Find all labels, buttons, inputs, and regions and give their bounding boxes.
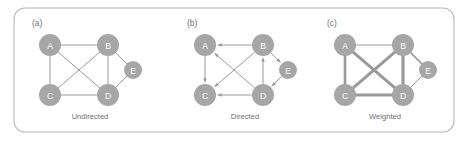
panel-b-edge-D-A <box>218 56 255 88</box>
panel-c-node-C: C <box>334 84 356 106</box>
panel-b-edge-D-B-arrowhead <box>261 57 264 62</box>
panel-a-caption: Undirected <box>72 112 109 121</box>
panel-a-edge-B-E <box>115 52 127 64</box>
panel-b-edge-B-E <box>271 53 277 59</box>
panel-a-node-A-label: A <box>47 41 53 51</box>
panel-c-edge-D-E <box>410 76 422 88</box>
panels-group: ABCDE(a)UndirectedABCDE(b)DirectedABCDE(… <box>32 18 437 121</box>
panel-a-node-B-label: B <box>105 41 111 51</box>
panel-b-node-A: A <box>194 34 216 56</box>
panel-b-node-B: B <box>252 34 274 56</box>
panel-b-label: (b) <box>187 18 198 28</box>
panel-a-edge-D-E <box>115 76 127 88</box>
panel-b-edge-B-C <box>218 53 255 85</box>
panel-a-label: (a) <box>32 18 43 28</box>
panel-b-node-B-label: B <box>260 41 266 51</box>
panel-a: ABCDE(a)Undirected <box>32 18 142 121</box>
panel-b-edge-D-C-arrowhead <box>217 93 222 96</box>
panel-b-edge-A-C-arrowhead <box>203 78 206 83</box>
panel-c-node-E: E <box>419 61 437 79</box>
panel-c-label: (c) <box>327 18 337 28</box>
panel-c: ABCDE(c)Weighted <box>327 18 437 121</box>
graph-types-figure: ABCDE(a)UndirectedABCDE(b)DirectedABCDE(… <box>0 0 468 144</box>
panel-b-node-E-label: E <box>285 66 291 76</box>
panel-c-node-A-label: A <box>342 41 348 51</box>
panel-a-node-E: E <box>124 61 142 79</box>
panel-c-node-B: B <box>392 34 414 56</box>
panel-a-node-D-label: D <box>105 91 111 101</box>
panel-c-caption: Weighted <box>369 112 401 121</box>
panel-c-node-B-label: B <box>400 41 406 51</box>
panel-b-caption: Directed <box>231 112 259 121</box>
panel-c-edge-B-E <box>410 52 422 64</box>
panel-a-node-A: A <box>39 34 61 56</box>
panel-b-node-C: C <box>194 84 216 106</box>
panel-c-node-D: D <box>392 84 414 106</box>
panel-b-node-D: D <box>252 84 274 106</box>
panel-a-node-D: D <box>97 84 119 106</box>
panel-b-node-C-label: C <box>202 91 208 101</box>
panel-b-node-A-label: A <box>202 41 208 51</box>
panel-b-node-D-label: D <box>260 91 266 101</box>
panel-b-edge-E-D <box>275 77 281 83</box>
figure-canvas: ABCDE(a)UndirectedABCDE(b)DirectedABCDE(… <box>0 0 468 144</box>
panel-a-node-C-label: C <box>47 91 53 101</box>
panel-a-node-E-label: E <box>130 66 136 76</box>
panel-c-node-D-label: D <box>400 91 406 101</box>
panel-c-node-A: A <box>334 34 356 56</box>
panel-a-node-C: C <box>39 84 61 106</box>
panel-c-node-E-label: E <box>425 66 431 76</box>
panel-b-node-E: E <box>279 61 297 79</box>
panel-c-node-C-label: C <box>342 91 348 101</box>
panel-a-node-B: B <box>97 34 119 56</box>
panel-b: ABCDE(b)Directed <box>187 18 297 121</box>
panel-b-edge-B-A-arrowhead <box>217 43 222 46</box>
